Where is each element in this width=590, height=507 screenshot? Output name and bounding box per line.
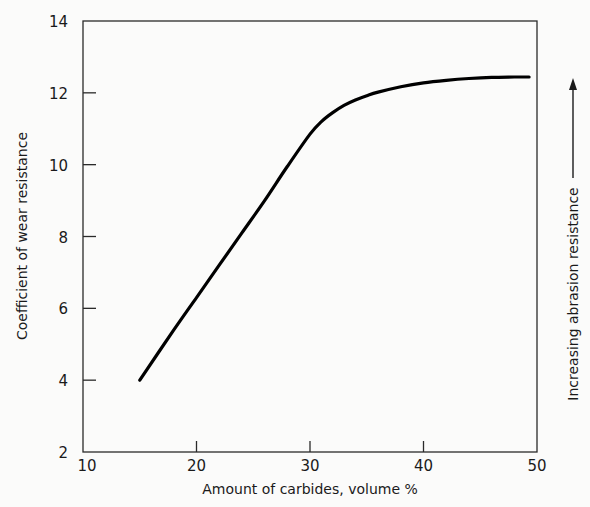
y-tick-label: 12 <box>49 85 68 103</box>
x-tick-label: 10 <box>77 457 96 475</box>
y-axis-ticks: 2468101214 <box>49 13 96 462</box>
y-tick-label: 8 <box>58 229 68 247</box>
right-annotation: Increasing abrasion resistance <box>565 187 581 400</box>
wear-resistance-curve <box>140 77 529 380</box>
x-tick-label: 20 <box>187 457 206 475</box>
y-axis-title: Coefficient of wear resistance <box>14 132 30 340</box>
y-tick-label: 2 <box>58 444 68 462</box>
wear-resistance-chart: 2468101214 1020304050 Amount of carbides… <box>0 0 590 507</box>
x-axis-title: Amount of carbides, volume % <box>202 481 418 497</box>
y-tick-label: 10 <box>49 157 68 175</box>
arrow-up-icon <box>569 78 577 90</box>
y-tick-label: 4 <box>58 372 68 390</box>
y-tick-label: 14 <box>49 13 68 31</box>
x-tick-label: 30 <box>300 457 319 475</box>
x-tick-label: 50 <box>527 457 546 475</box>
x-tick-label: 40 <box>414 457 433 475</box>
y-tick-label: 6 <box>58 300 68 318</box>
x-axis-ticks: 1020304050 <box>77 441 546 475</box>
plot-frame <box>83 21 537 452</box>
